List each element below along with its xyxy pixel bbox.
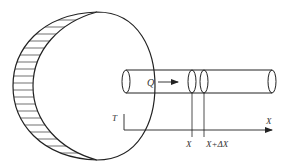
element-ring-x-plus-dx [200, 70, 208, 93]
element-ring-x [188, 70, 196, 93]
element-end-label: X+ΔX [205, 139, 229, 149]
flow-label: Q [147, 77, 155, 88]
diagram-canvas: Q T X X X+ΔX [0, 0, 283, 168]
pipe-inlet-end [122, 70, 130, 93]
element-start-label: X [185, 139, 192, 149]
position-axis-label: X [265, 116, 272, 126]
pipe-outlet-end [268, 70, 276, 93]
